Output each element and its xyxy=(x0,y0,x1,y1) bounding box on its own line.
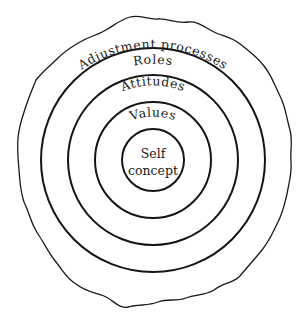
self-concept-diagram: Adjustment processes Roles Attitudes Val… xyxy=(0,0,308,319)
roles-label: Roles xyxy=(132,52,174,69)
attitudes-label: Attitudes xyxy=(118,73,188,94)
self-label: Self xyxy=(141,146,167,161)
values-label: Values xyxy=(127,104,179,123)
concept-label: concept xyxy=(128,163,178,178)
